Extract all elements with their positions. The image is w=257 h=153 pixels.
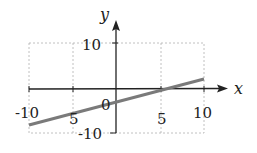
x-axis-label: x xyxy=(234,79,243,98)
x-axis xyxy=(29,85,228,93)
x-tick-5: 5 xyxy=(157,110,167,128)
x-tick-10: 10 xyxy=(193,104,212,122)
y-tick-10: 10 xyxy=(82,36,101,54)
graph: y x 10 -10 -10 5 5 10 0 xyxy=(0,0,257,153)
y-tick-neg10: -10 xyxy=(78,125,102,143)
origin-label: 0 xyxy=(101,96,111,114)
y-axis xyxy=(110,20,120,133)
x-tick-neg5: 5 xyxy=(69,110,79,128)
x-tick-neg10: -10 xyxy=(15,104,39,122)
y-axis-label: y xyxy=(99,5,110,24)
